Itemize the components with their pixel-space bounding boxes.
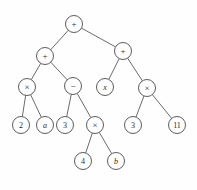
node-leaf-3-left: 3	[57, 117, 74, 134]
edge-times-to-11	[152, 95, 171, 119]
node-minus-label: −	[70, 81, 75, 91]
node-right-plus-label: +	[120, 46, 125, 56]
node-root-plus: +	[66, 16, 83, 33]
edge-left-plus-to-times	[31, 63, 40, 79]
node-left-plus: +	[37, 48, 54, 65]
node-times-left: ×	[19, 79, 36, 96]
nodes-group: +++×−x×2a3×3114b	[13, 16, 186, 170]
edge-root-to-right-plus	[81, 28, 115, 47]
edge-root-to-left-plus	[51, 30, 69, 49]
node-leaf-b-label: b	[114, 157, 118, 166]
edge-minus-to-times	[77, 93, 91, 117]
node-leaf-11: 11	[169, 117, 186, 134]
edge-times-to-4	[86, 133, 93, 153]
edge-right-plus-to-times	[128, 58, 143, 81]
node-leaf-11-label: 11	[173, 121, 181, 130]
node-leaf-a: a	[37, 117, 54, 134]
node-root-plus-label: +	[71, 19, 76, 29]
edge-left-plus-to-minus	[51, 62, 67, 80]
node-minus: −	[65, 78, 82, 95]
diagram-canvas: +++×−x×2a3×3114b	[0, 0, 197, 190]
node-leaf-4-label: 4	[81, 157, 85, 166]
expression-tree-diagram: +++×−x×2a3×3114b	[0, 0, 197, 190]
node-times-left-label: ×	[24, 82, 29, 92]
edge-times-to-2	[22, 95, 25, 116]
node-leaf-3-left-label: 3	[63, 121, 67, 130]
node-leaf-2: 2	[13, 117, 30, 134]
node-leaf-a-label: a	[43, 121, 47, 130]
edge-times-to-3	[136, 96, 144, 117]
node-times-bottom-label: ×	[92, 120, 97, 130]
edge-minus-to-3	[67, 94, 72, 116]
edge-times-to-a	[31, 95, 42, 118]
node-leaf-b: b	[108, 153, 125, 170]
node-var-x-label: x	[102, 83, 107, 92]
node-right-plus: +	[115, 43, 132, 60]
node-leaf-2-label: 2	[19, 121, 23, 130]
edge-right-plus-to-x	[109, 59, 119, 80]
node-leaf-4: 4	[75, 153, 92, 170]
node-times-right: ×	[139, 80, 156, 97]
node-times-right-label: ×	[144, 83, 149, 93]
node-var-x: x	[97, 79, 114, 96]
node-left-plus-label: +	[42, 51, 47, 61]
node-leaf-3-right: 3	[125, 117, 142, 134]
edge-times-to-b	[99, 132, 111, 153]
node-times-bottom: ×	[87, 117, 104, 134]
node-leaf-3-right-label: 3	[131, 121, 135, 130]
